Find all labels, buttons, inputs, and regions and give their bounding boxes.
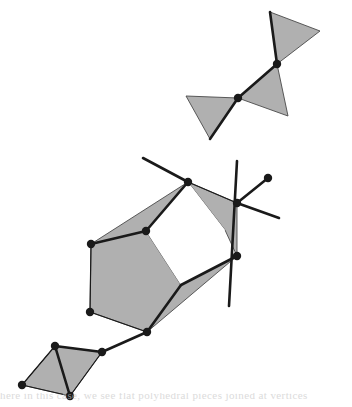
face-upper-right-triangle (270, 12, 320, 64)
vertex-node-main-bottom (143, 328, 151, 336)
face-upper-left-triangle (186, 96, 238, 139)
edge-edge-bottom-node-to-chain (102, 332, 147, 352)
vertex-node-main-top (184, 178, 192, 186)
figure-root: here in this case, we see flat polyhedra… (0, 0, 352, 407)
vertex-node-rhombus-right (98, 348, 106, 356)
vertex-node-upper-junction-b (234, 94, 242, 102)
group-upper-triangle-pair (186, 12, 320, 139)
vertex-node-rhombus-left (18, 381, 26, 389)
vertex-node-main-right-upper (233, 199, 241, 207)
vertex-node-radial-endpoint (264, 174, 272, 182)
edge-edge-radial-lower-right (237, 203, 279, 218)
vertex-node-main-right-lower (233, 252, 241, 260)
vertex-node-upper-junction-a (273, 60, 281, 68)
vertex-node-rhombus-bottom (66, 392, 74, 400)
edge-edge-radial-to-endpoint (237, 178, 268, 203)
vertex-node-rhombus-top (51, 342, 59, 350)
edge-edge-ray-upper-left (143, 158, 188, 182)
vertex-node-main-upper-left (142, 227, 150, 235)
vertex-node-main-bottom-left (86, 308, 94, 316)
geometry-canvas (0, 0, 352, 407)
vertex-node-main-left-corner (87, 240, 95, 248)
